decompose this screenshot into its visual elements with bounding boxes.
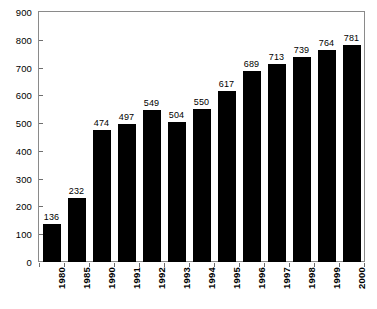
y-tick-label: 300: [16, 173, 32, 184]
y-tick-label: 200: [16, 201, 32, 212]
y-tick-label: 800: [16, 34, 32, 45]
x-tick-mark: [339, 263, 340, 267]
x-tick-mark: [289, 263, 290, 267]
x-tick-mark: [114, 263, 115, 267]
y-tick-label: 500: [16, 118, 32, 129]
bar-value-label: 550: [189, 97, 215, 107]
bar-value-label: 474: [89, 118, 115, 128]
bar-value-label: 497: [114, 112, 140, 122]
bar-value-label: 504: [164, 110, 190, 120]
y-tick-mark: [39, 179, 43, 180]
x-tick-mark: [39, 263, 40, 267]
bar: [118, 124, 136, 262]
y-tick-label: 700: [16, 62, 32, 73]
x-tick-mark: [214, 263, 215, 267]
x-tick-label: 1991: [131, 267, 142, 289]
x-tick-mark: [264, 263, 265, 267]
x-tick-label: 1993: [181, 267, 192, 289]
x-tick-label: 1995: [231, 267, 242, 289]
x-tick-mark: [139, 263, 140, 267]
x-tick-mark: [189, 263, 190, 267]
y-tick-label: 600: [16, 90, 32, 101]
bar: [343, 45, 361, 262]
x-tick-label: 1994: [206, 267, 217, 289]
x-tick-mark: [89, 263, 90, 267]
bar: [318, 50, 336, 262]
x-tick-mark: [164, 263, 165, 267]
bar-value-label: 764: [314, 38, 340, 48]
bar-value-label: 617: [214, 79, 240, 89]
x-tick-label: 1985: [81, 267, 92, 289]
y-tick-mark: [39, 40, 43, 41]
y-tick-mark: [39, 95, 43, 96]
bar-value-label: 713: [264, 52, 290, 62]
bar: [243, 71, 261, 262]
bar-value-label: 549: [139, 98, 165, 108]
x-tick-mark: [64, 263, 65, 267]
bar-chart: 0100200300400500600700800900 13623247449…: [0, 0, 377, 309]
x-tick-mark: [239, 263, 240, 267]
y-tick-label: 900: [16, 7, 32, 18]
bar: [43, 224, 61, 262]
bar: [218, 91, 236, 262]
bar-value-label: 232: [64, 186, 90, 196]
x-tick-label: 1990: [106, 267, 117, 289]
bar: [268, 64, 286, 262]
x-tick-label: 1992: [156, 267, 167, 289]
y-tick-mark: [39, 206, 43, 207]
x-tick-label: 1999: [331, 267, 342, 289]
bar: [93, 130, 111, 262]
x-tick-label: 1997: [281, 267, 292, 289]
x-tick-mark: [364, 263, 365, 267]
bar-value-label: 689: [239, 59, 265, 69]
bar-value-label: 781: [339, 33, 365, 43]
plot-area: 136232474497549504550617689713739764781: [39, 12, 364, 262]
y-tick-mark: [39, 123, 43, 124]
x-tick-mark: [314, 263, 315, 267]
bar: [293, 57, 311, 262]
x-tick-label: 1996: [256, 267, 267, 289]
bar: [193, 109, 211, 262]
x-tick-label: 1980: [56, 267, 67, 289]
y-axis: 0100200300400500600700800900: [0, 0, 36, 309]
bar-value-label: 739: [289, 45, 315, 55]
x-axis: 1980198519901991199219931994199519961997…: [39, 263, 364, 309]
y-tick-label: 100: [16, 229, 32, 240]
y-tick-label: 400: [16, 145, 32, 156]
bar: [168, 122, 186, 262]
x-tick-label: 1998: [306, 267, 317, 289]
y-tick-mark: [39, 68, 43, 69]
x-tick-label: 2000: [356, 267, 367, 289]
bar: [143, 110, 161, 263]
y-tick-label: 0: [27, 257, 32, 268]
y-tick-mark: [39, 234, 43, 235]
bar-value-label: 136: [39, 212, 65, 222]
bar: [68, 198, 86, 262]
y-tick-mark: [39, 151, 43, 152]
